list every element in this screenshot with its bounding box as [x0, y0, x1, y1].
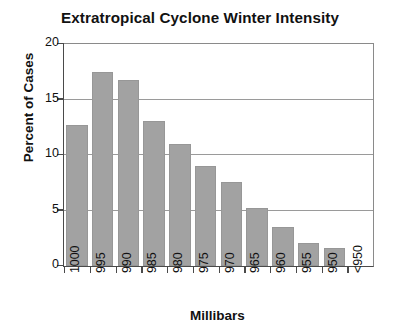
x-tick-label: 960 [274, 252, 288, 273]
bar [169, 144, 191, 266]
x-tick-label: 1000 [68, 246, 82, 273]
bar [92, 72, 114, 266]
x-tick [167, 266, 168, 273]
x-axis-title: Millibars [63, 308, 372, 323]
x-tick-label: 950 [326, 252, 340, 273]
x-tick [322, 266, 323, 273]
x-tick-label: 990 [120, 252, 134, 273]
x-tick [116, 266, 117, 273]
x-tick [141, 266, 142, 273]
x-tick [90, 266, 91, 273]
x-tick-label: 955 [300, 252, 314, 273]
x-tick [64, 266, 65, 273]
x-tick [347, 266, 348, 273]
plot-area [63, 43, 374, 267]
x-tick [296, 266, 297, 273]
chart-title: Extratropical Cyclone Winter Intensity [0, 9, 400, 26]
bar [143, 121, 165, 266]
chart-figure: Extratropical Cyclone Winter Intensity P… [0, 0, 400, 335]
y-tick-label: 15 [19, 91, 59, 105]
x-tick-label: 975 [197, 252, 211, 273]
bar [118, 80, 140, 266]
bar-series [64, 44, 373, 266]
x-tick-label: 970 [223, 252, 237, 273]
x-tick [193, 266, 194, 273]
x-tick-label: 965 [248, 252, 262, 273]
x-tick-label: 995 [94, 252, 108, 273]
x-tick [270, 266, 271, 273]
y-tick-label: 20 [19, 35, 59, 49]
y-tick-label: 5 [19, 202, 59, 216]
x-tick-label: 985 [145, 252, 159, 273]
x-tick [219, 266, 220, 273]
y-tick-label: 10 [19, 146, 59, 160]
y-axis-title: Percent of Cases [21, 28, 36, 188]
x-tick-label: 980 [171, 252, 185, 273]
x-tick-label: <950 [351, 245, 365, 273]
y-tick-label: 0 [19, 257, 59, 271]
x-tick [244, 266, 245, 273]
